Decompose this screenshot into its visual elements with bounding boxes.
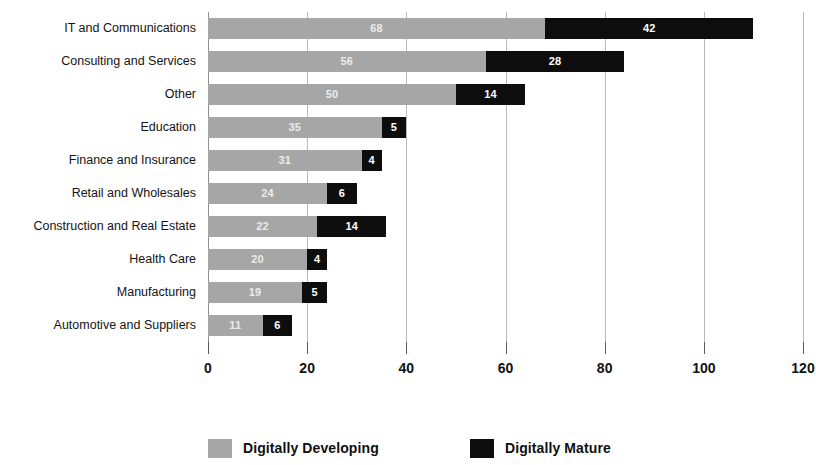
stacked-bar-chart: 6842562850143553142462214204195116 IT an… [0,0,816,465]
bar-segment-developing: 35 [208,117,382,138]
bar-rows: 6842562850143553142462214204195116 [208,12,803,342]
category-label: IT and Communications [0,18,196,39]
bar-value-label: 35 [288,122,301,133]
x-tick-label: 60 [498,360,514,376]
bar-value-label: 14 [484,89,497,100]
category-label: Consulting and Services [0,51,196,72]
bar-row: 5014 [208,84,525,105]
bar-segment-developing: 50 [208,84,456,105]
bar-segment-developing: 31 [208,150,362,171]
bar-value-label: 31 [279,155,292,166]
bar-value-label: 24 [261,188,274,199]
bar-row: 6842 [208,18,753,39]
category-axis-labels: IT and CommunicationsConsulting and Serv… [0,12,196,342]
x-tick-mark [406,342,407,354]
category-label: Finance and Insurance [0,150,196,171]
gridline [803,12,804,342]
bar-value-label: 42 [643,23,656,34]
chart-legend: Digitally DevelopingDigitally Mature [0,437,816,465]
x-tick-mark [704,342,705,354]
x-tick-mark [208,342,209,354]
legend-item[interactable]: Digitally Developing [208,437,379,459]
x-tick-mark [605,342,606,354]
x-axis: 020406080100120 [208,342,803,382]
x-tick-label: 20 [299,360,315,376]
bar-value-label: 5 [391,122,397,133]
legend-swatch-icon [208,439,232,458]
bar-segment-developing: 19 [208,282,302,303]
bar-row: 314 [208,150,382,171]
category-label: Other [0,84,196,105]
x-tick-label: 120 [791,360,814,376]
bar-row: 204 [208,249,327,270]
bar-segment-developing: 56 [208,51,486,72]
x-tick-mark [803,342,804,354]
x-tick-label: 100 [692,360,715,376]
bar-value-label: 22 [256,221,269,232]
category-label: Construction and Real Estate [0,216,196,237]
bar-segment-mature: 5 [302,282,327,303]
x-tick-label: 80 [597,360,613,376]
bar-row: 2214 [208,216,386,237]
bar-segment-mature: 6 [327,183,357,204]
bar-value-label: 6 [274,320,280,331]
legend-label: Digitally Mature [505,440,611,456]
bar-value-label: 28 [549,56,562,67]
bar-segment-developing: 11 [208,315,263,336]
bar-value-label: 4 [368,155,374,166]
category-label: Education [0,117,196,138]
bar-row: 116 [208,315,292,336]
bar-row: 355 [208,117,406,138]
bar-row: 246 [208,183,357,204]
bar-segment-mature: 42 [545,18,753,39]
plot-area: 6842562850143553142462214204195116 [208,12,803,342]
category-label: Retail and Wholesales [0,183,196,204]
bar-segment-developing: 20 [208,249,307,270]
legend-swatch-icon [470,439,494,458]
bar-segment-mature: 5 [382,117,407,138]
bar-value-label: 19 [249,287,262,298]
bar-segment-mature: 14 [456,84,525,105]
bar-segment-developing: 24 [208,183,327,204]
bar-segment-mature: 4 [362,150,382,171]
bar-value-label: 5 [311,287,317,298]
category-label: Manufacturing [0,282,196,303]
bar-row: 195 [208,282,327,303]
category-label: Health Care [0,249,196,270]
bar-value-label: 4 [314,254,320,265]
bar-value-label: 6 [339,188,345,199]
bar-value-label: 14 [345,221,358,232]
bar-segment-mature: 6 [263,315,293,336]
bar-segment-mature: 4 [307,249,327,270]
bar-value-label: 50 [326,89,339,100]
legend-item[interactable]: Digitally Mature [470,437,611,459]
bar-value-label: 11 [229,320,241,331]
bar-value-label: 68 [370,23,383,34]
bar-segment-mature: 28 [486,51,625,72]
x-tick-label: 40 [399,360,415,376]
bar-value-label: 20 [251,254,264,265]
legend-label: Digitally Developing [243,440,379,456]
bar-segment-developing: 68 [208,18,545,39]
bar-value-label: 56 [341,56,354,67]
x-tick-mark [506,342,507,354]
category-label: Automotive and Suppliers [0,315,196,336]
x-tick-label: 0 [204,360,212,376]
bar-segment-mature: 14 [317,216,386,237]
x-tick-mark [307,342,308,354]
bar-segment-developing: 22 [208,216,317,237]
bar-row: 5628 [208,51,624,72]
